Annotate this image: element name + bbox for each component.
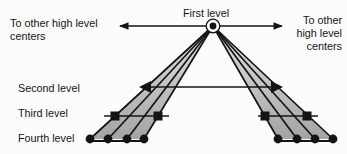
second-level-label: Second level — [18, 82, 80, 94]
fourth-level-node-icon — [104, 135, 113, 144]
third-level-node-icon — [111, 112, 120, 121]
high-level-trunk-arrow — [119, 22, 283, 30]
left-note-line-1: To other high level — [10, 17, 98, 29]
third-level-node-icon — [261, 112, 270, 121]
arrowhead-right-icon — [274, 22, 284, 30]
fourth-level-node-icon — [293, 135, 302, 144]
first-level-label: First level — [183, 7, 229, 19]
fourth-level-node-icon — [140, 135, 149, 144]
right-note-line-2: high level — [296, 27, 342, 39]
hierarchy-diagram: First level Second level Third level Fou… — [0, 0, 347, 154]
right-note-line-3: centers — [307, 40, 343, 52]
fourth-level-node-icon — [329, 135, 338, 144]
fourth-level-label: Fourth level — [18, 132, 74, 144]
right-note: To other high level centers — [296, 14, 342, 52]
arrowhead-left-icon — [119, 22, 129, 30]
third-level-label: Third level — [18, 107, 68, 119]
fourth-level-node-icon — [86, 135, 95, 144]
right-note-line-1: To other — [303, 14, 342, 26]
hierarchy-diagram-canvas: First level Second level Third level Fou… — [0, 0, 347, 154]
left-note: To other high level centers — [10, 17, 98, 42]
third-level-node-icon — [303, 112, 312, 121]
fourth-level-node-icon — [311, 135, 320, 144]
first-level-node-icon — [206, 19, 220, 33]
left-note-line-2: centers — [10, 30, 46, 42]
fourth-level-node-icon — [123, 135, 132, 144]
fourth-level-node-icon — [274, 135, 283, 144]
third-level-node-icon — [154, 112, 163, 121]
